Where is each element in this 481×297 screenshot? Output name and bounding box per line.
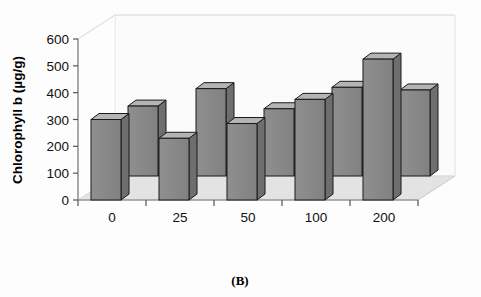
bar-side-face <box>257 118 265 200</box>
y-tick-label: 200 <box>46 139 69 154</box>
bar-front-face <box>363 59 393 200</box>
bar-front-50 <box>227 118 265 200</box>
bar-front-face <box>400 90 430 176</box>
bar-chart-svg: 0100200300400500600 Chlorophyll b (µg/g)… <box>0 0 481 297</box>
y-tick-label: 100 <box>46 166 69 181</box>
bar-side-face <box>393 53 401 200</box>
x-tick-label: 0 <box>108 210 116 225</box>
bar-front-200 <box>363 53 401 200</box>
y-tick-label: 300 <box>46 113 69 128</box>
bar-front-face <box>295 99 325 200</box>
bar-side-face <box>325 93 333 200</box>
x-tick-label: 100 <box>305 210 328 225</box>
y-tick-label: 400 <box>46 86 69 101</box>
y-axis-title: Chlorophyll b (µg/g) <box>10 56 25 184</box>
bar-front-25 <box>159 132 197 200</box>
x-tick-label: 200 <box>373 210 396 225</box>
bar-side-face <box>121 114 129 201</box>
bar-front-100 <box>295 93 333 200</box>
x-tick-label: 25 <box>172 210 187 225</box>
panel-label: (B) <box>231 273 248 288</box>
bar-front-face <box>159 138 189 200</box>
chart-figure: 0100200300400500600 Chlorophyll b (µg/g)… <box>0 0 481 297</box>
bar-side-face <box>189 132 197 200</box>
y-tick-label: 0 <box>61 193 69 208</box>
bar-front-face <box>264 109 294 176</box>
bar-front-face <box>196 89 226 176</box>
bar-side-face <box>430 84 438 176</box>
bar-back-200 <box>400 84 438 176</box>
bar-front-0 <box>91 114 129 201</box>
bar-front-face <box>91 120 121 201</box>
bar-front-face <box>332 87 362 176</box>
y-tick-label: 500 <box>46 59 69 74</box>
y-tick-label: 600 <box>46 32 69 47</box>
bar-front-face <box>128 106 158 176</box>
x-tick-label: 50 <box>240 210 255 225</box>
bar-front-face <box>227 124 257 200</box>
